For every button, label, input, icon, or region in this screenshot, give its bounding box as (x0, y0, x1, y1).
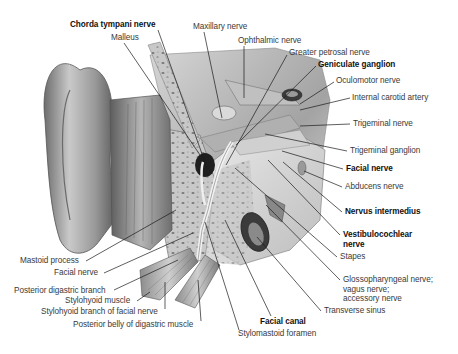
label-transverse-sinus: Transverse sinus (324, 306, 385, 316)
label-trigeminal-ganglion: Trigeminal ganglion (350, 146, 420, 156)
label-nervus-intermedius: Nervus intermedius (345, 207, 421, 217)
maxillary-nerve-shape (212, 106, 236, 120)
label-stapes: Stapes (340, 252, 365, 262)
label-facial-canal: Facial canal (260, 317, 306, 327)
label-stylohyoid-branch-facial-nerve: Stylohyoid branch of facial nerve (41, 307, 158, 317)
label-geniculate-ganglion: Geniculate ganglion (318, 60, 395, 70)
label-ophthalmic-nerve: Ophthalmic nerve (238, 36, 301, 46)
label-facial-nerve-right: Facial nerve (346, 164, 393, 174)
label-glossopharyngeal-vagus-accessory: Glossopharyngeal nerve; vagus nerve; acc… (343, 275, 433, 304)
abducens-foramen (298, 161, 306, 175)
label-greater-petrosal-nerve: Greater petrosal nerve (289, 48, 370, 58)
label-maxillary-nerve: Maxillary nerve (193, 22, 247, 32)
label-vestibulocochlear-nerve: Vestibulocochlear nerve (343, 230, 412, 249)
label-posterior-belly-digastric-muscle: Posterior belly of digastric muscle (73, 320, 193, 330)
middle-ear-cavity (195, 153, 215, 177)
label-trigeminal-nerve: Trigeminal nerve (353, 119, 413, 129)
label-stylohyoid-muscle: Stylohyoid muscle (65, 296, 130, 306)
auricle (44, 64, 116, 254)
label-posterior-digastric-branch: Posterior digastric branch (14, 286, 106, 296)
external-acoustic-meatus (110, 95, 172, 250)
label-mastoid-process: Mastoid process (20, 256, 79, 266)
label-oculomotor-nerve: Oculomotor nerve (336, 76, 400, 86)
label-stylomastoid-foramen: Stylomastoid foramen (238, 329, 316, 339)
label-facial-nerve-left: Facial nerve (54, 268, 98, 278)
label-internal-carotid-artery: Internal carotid artery (352, 93, 428, 103)
label-malleus: Malleus (111, 33, 139, 43)
anatomy-figure: Chorda tympani nerveMalleusMaxillary ner… (0, 0, 458, 354)
label-chorda-tympani-nerve: Chorda tympani nerve (70, 20, 155, 30)
label-abducens-nerve: Abducens nerve (345, 182, 403, 192)
